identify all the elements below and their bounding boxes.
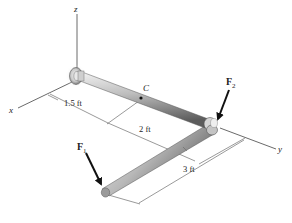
z-axis-label: z	[73, 4, 78, 14]
flange-support	[65, 64, 87, 88]
x-axis-label: x	[8, 105, 13, 115]
dimension-2-ft: 2 ft	[139, 124, 151, 134]
dimension-3-ft: 3 ft	[183, 164, 195, 174]
force-f2-label: F2	[226, 76, 236, 90]
force-f2-arrow	[218, 90, 229, 119]
point-c-marker	[139, 96, 142, 99]
force-f1-arrow	[86, 153, 101, 184]
y-axis-label: y	[277, 144, 282, 154]
dimension-1-5-ft: 1.5 ft	[64, 98, 83, 108]
point-c-label: C	[143, 83, 150, 93]
y-axis	[220, 128, 276, 149]
force-f1-label: F1	[77, 141, 87, 155]
rod-segment-1	[80, 72, 211, 129]
rod-segment-2	[101, 126, 214, 197]
pipe-diagram: z x y 1.5 ft 2 ft 3 ft C	[0, 0, 292, 223]
